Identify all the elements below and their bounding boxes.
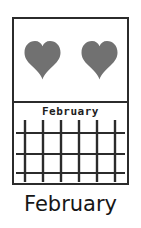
heart-icon: [24, 40, 61, 80]
calendar-panel: February: [14, 103, 127, 183]
month-flashcard: February: [12, 17, 129, 185]
symbol-panel: [14, 19, 127, 103]
calendar-month-label: February: [14, 105, 127, 118]
calendar-grid-icon: [16, 120, 125, 182]
caption-label: February: [0, 192, 141, 217]
heart-icon: [81, 40, 118, 80]
